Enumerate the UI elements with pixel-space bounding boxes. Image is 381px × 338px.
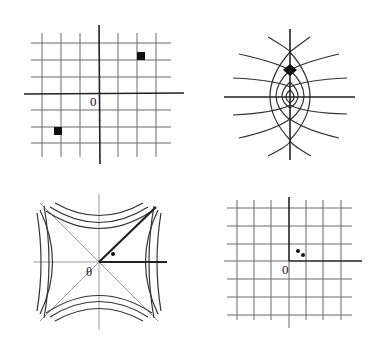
angle-label: θ (86, 264, 92, 279)
panel-top-right (224, 29, 355, 160)
origin-label: 0 (282, 262, 289, 277)
grid-lines (31, 33, 171, 157)
origin-label: 0 (90, 94, 97, 109)
panel-top-left: 0 (24, 25, 184, 164)
dot-marker (301, 253, 305, 257)
y-axis (99, 25, 100, 164)
panel-bottom-left: θ (33, 194, 167, 330)
square-marker (137, 52, 145, 60)
x-axis (24, 93, 184, 94)
panel-bottom-right: 0 (224, 197, 362, 328)
square-marker (54, 127, 62, 135)
diamond-marker (283, 64, 297, 76)
dot-marker (296, 249, 300, 253)
dot-marker (111, 252, 115, 256)
figure: 0 (0, 0, 381, 338)
